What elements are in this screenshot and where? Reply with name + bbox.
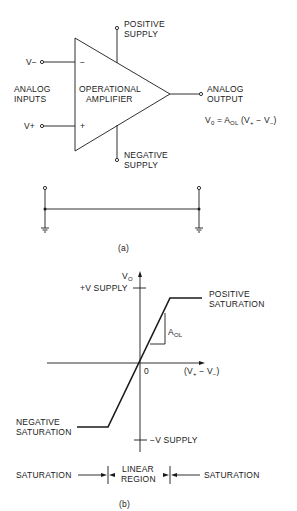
region-middle-label-2: REGION (121, 474, 156, 484)
positive-supply-label-1: POSITIVE (124, 19, 165, 29)
gain-label: AOL (168, 327, 183, 338)
region-left-label: SATURATION (16, 470, 72, 480)
analog-output-label-1: ANALOG (207, 84, 244, 94)
figure-b: VO +V SUPPLY −V SUPPLY 0 (V+ − V−) AOL P… (16, 271, 265, 509)
inverting-input-terminal (40, 60, 43, 63)
positive-saturation-label-1: POSITIVE (209, 289, 250, 299)
gain-triangle (150, 313, 165, 344)
region-right-label: SATURATION (204, 470, 260, 480)
pos-supply-label: +V SUPPLY (80, 283, 128, 293)
figure-a: V− − V+ + ANALOG INPUTS OPERATIONAL AMPL… (14, 19, 277, 253)
noninverting-input-label: V+ (24, 121, 35, 131)
origin-label: 0 (144, 366, 149, 376)
caption-b: (b) (119, 499, 130, 509)
analog-inputs-label-1: ANALOG (14, 84, 51, 94)
amplifier-label-2: AMPLIFIER (86, 94, 133, 104)
positive-saturation-label-2: SATURATION (209, 299, 265, 309)
x-axis-label: (V+ − V−) (184, 366, 220, 377)
inverting-input-label: V− (26, 57, 37, 67)
neg-supply-label: −V SUPPLY (150, 435, 198, 445)
caption-a: (a) (118, 243, 129, 253)
positive-supply-label-2: SUPPLY (124, 29, 158, 39)
amplifier-label-1: OPERATIONAL (79, 84, 141, 94)
negative-supply-label-2: SUPPLY (124, 160, 158, 170)
analog-output-label-2: OUTPUT (207, 94, 243, 104)
x-axis-arrow-icon (199, 361, 205, 365)
y-axis-arrow-icon (138, 271, 142, 277)
output-formula: V0 = AOL (V+ − V−) (205, 115, 277, 126)
output-terminal (199, 92, 202, 95)
noninverting-input-terminal (40, 124, 43, 127)
y-axis-label: VO (122, 271, 133, 282)
analog-inputs-label-2: INPUTS (14, 94, 46, 104)
minus-sign: − (80, 57, 85, 67)
plus-sign: + (80, 121, 85, 131)
region-middle-label-1: LINEAR (122, 464, 154, 474)
positive-supply-terminal (115, 26, 118, 29)
negative-supply-label-1: NEGATIVE (124, 150, 168, 160)
transfer-curve (77, 298, 202, 427)
op-amp-diagram: V− − V+ + ANALOG INPUTS OPERATIONAL AMPL… (0, 0, 297, 511)
negative-saturation-label-1: NEGATIVE (16, 417, 60, 427)
ground-bus (41, 186, 203, 232)
negative-supply-terminal (115, 158, 118, 161)
negative-saturation-label-2: SATURATION (16, 427, 72, 437)
region-bar: SATURATION LINEAR REGION SATURATION (16, 464, 260, 484)
